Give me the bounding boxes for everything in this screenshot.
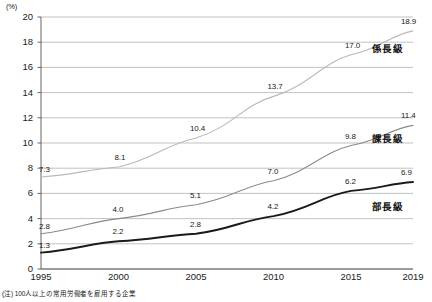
data-point-label: 4.2 <box>268 203 279 211</box>
x-axis-tick-label: 2010 <box>263 272 284 282</box>
data-point-label: 7.3 <box>39 166 50 174</box>
data-point-label: 17.0 <box>345 42 360 50</box>
x-axis-tick-label: 2000 <box>108 272 129 282</box>
data-point-label: 1.3 <box>39 242 50 250</box>
data-point-label: 13.7 <box>268 83 283 91</box>
series-line <box>41 125 413 233</box>
series-line <box>41 31 413 177</box>
series-label-0: 係長級 <box>372 44 403 54</box>
data-point-label: 2.8 <box>190 221 201 229</box>
y-axis-tick-label: 4 <box>28 214 33 224</box>
y-axis-tick-label: 8 <box>28 163 33 173</box>
data-point-label: 2.2 <box>113 228 124 236</box>
y-axis-tick-label: 12 <box>22 113 33 123</box>
y-axis-tick-label: 16 <box>22 63 33 73</box>
y-axis-tick-label: 18 <box>22 37 33 47</box>
x-axis-tick-label: 2019 <box>402 272 423 282</box>
y-axis-tick-label: 14 <box>22 88 33 98</box>
chart-canvas <box>0 0 432 302</box>
data-point-label: 6.2 <box>345 178 356 186</box>
data-point-label: 18.9 <box>401 18 416 26</box>
x-axis-tick-labels: 199520002005201020152019 <box>0 272 432 288</box>
line-chart: (%) 02468101214161820 199520002005201020… <box>0 0 432 302</box>
y-axis-tick-label: 10 <box>22 138 33 148</box>
gridlines-group <box>41 17 413 269</box>
data-point-label: 8.1 <box>115 154 126 162</box>
series-label-2: 部長級 <box>372 202 403 212</box>
data-point-label: 2.8 <box>39 223 50 231</box>
y-axis-tick-label: 6 <box>28 189 33 199</box>
x-axis-tick-label: 2015 <box>340 272 361 282</box>
x-axis-tick-label: 1995 <box>30 272 51 282</box>
data-point-label: 7.0 <box>268 168 279 176</box>
data-point-label: 5.1 <box>190 192 201 200</box>
series-lines-group <box>41 31 413 253</box>
data-point-label: 4.0 <box>113 206 124 214</box>
data-point-label: 11.4 <box>401 112 416 120</box>
data-point-label: 9.8 <box>345 133 356 141</box>
data-point-label: 6.9 <box>401 169 412 177</box>
series-label-1: 課長級 <box>372 134 403 144</box>
data-point-label: 10.4 <box>190 125 205 133</box>
y-axis-tick-label: 2 <box>28 239 33 249</box>
x-axis-tick-label: 2005 <box>185 272 206 282</box>
y-axis-tick-label: 20 <box>22 12 33 22</box>
y-axis-tick-labels: 02468101214161820 <box>0 0 33 302</box>
chart-footnote: (注) 100人以上の常用労働者を雇用する企業 <box>2 290 136 297</box>
series-line <box>41 182 413 253</box>
